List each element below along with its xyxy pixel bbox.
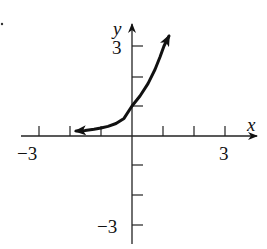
y-axis-label: y	[111, 18, 122, 39]
x-tick-label-3: 3	[219, 143, 229, 164]
y-tick-label-neg3: −3	[97, 216, 117, 237]
exponential-curve	[76, 36, 169, 131]
y-tick-label-3: 3	[112, 37, 122, 58]
stray-mark	[1, 23, 3, 25]
x-axis-label: x	[246, 114, 256, 135]
x-tick-label-neg3: −3	[17, 143, 37, 164]
graph: y x 3 −3 −3 3	[0, 0, 267, 249]
